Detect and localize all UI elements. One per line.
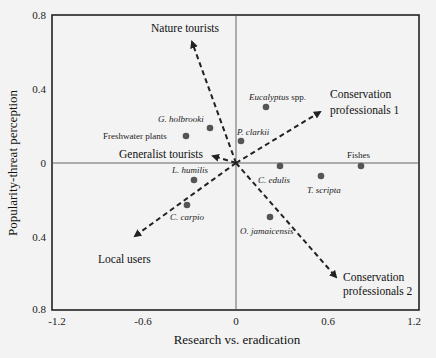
point-fishes (358, 163, 365, 170)
x-tick: 0 (233, 315, 239, 327)
label-t-scripta: T. scripta (307, 185, 341, 195)
point-l-humilis (191, 177, 198, 184)
label-conservation-professionals-1: Conservation (330, 88, 392, 100)
label-l-humilis: L. humilis (171, 165, 209, 175)
x-axis-label: Research vs. eradication (174, 332, 301, 347)
label-o-jamaicensis: O. jamaicensis (240, 226, 294, 236)
point-freshwater-plants (183, 133, 190, 140)
point-o-jamaicensis (267, 214, 274, 221)
label-p-clarkii: P. clarkii (236, 127, 270, 137)
y-tick: 0.4 (32, 231, 46, 243)
label-conservation-professionals-2: professionals 2 (343, 285, 413, 298)
point-g-holbrooki (207, 125, 214, 132)
label-c-edulis: C. edulis (258, 175, 290, 185)
x-tick: -1.2 (48, 315, 65, 327)
y-tick: 0.8 (32, 303, 46, 315)
label-local-users: Local users (98, 253, 151, 265)
label-freshwater-plants: Freshwater plants (103, 131, 167, 141)
y-axis-label: Popularity-threat perception (5, 89, 20, 236)
point-eucalyptus (263, 104, 270, 111)
label-fishes: Fishes (347, 150, 371, 160)
point-p-clarkii (238, 138, 245, 145)
point-t-scripta (318, 173, 325, 180)
label-nature-tourists: Nature tourists (151, 22, 220, 34)
label-eucalyptus: Eucalyptus spp. (248, 92, 306, 102)
label-g-holbrooki: G. holbrooki (158, 114, 204, 124)
label-c-carpio: C. carpio (170, 212, 205, 222)
point-c-carpio (184, 202, 191, 209)
label-conservation-professionals-1: professionals 1 (330, 104, 400, 117)
vector-generalist-tourists (213, 156, 236, 163)
vector-nature-tourists (192, 42, 236, 163)
point-c-edulis (277, 163, 284, 170)
y-tick: 0.8 (32, 9, 46, 21)
label-conservation-professionals-2: Conservation (343, 271, 405, 283)
label-generalist-tourists: Generalist tourists (119, 148, 204, 160)
x-tick: 0.6 (321, 315, 335, 327)
x-tick: 1.2 (407, 315, 421, 327)
y-tick: 0.4 (32, 83, 46, 95)
vector-conservation-professionals-1 (236, 112, 320, 163)
chart: 0.8 0.4 0 0.4 0.8 -1.2 -0.6 0 0.6 1.2 Re… (0, 0, 436, 358)
y-tick: 0 (41, 157, 47, 169)
x-tick: -0.6 (134, 315, 152, 327)
